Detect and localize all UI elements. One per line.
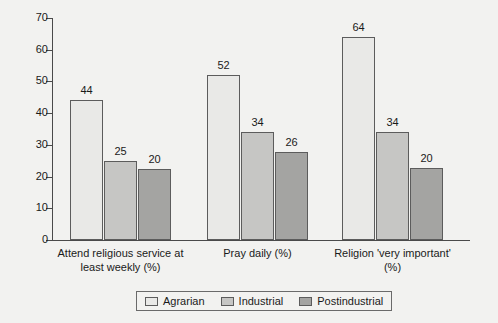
bar-value-label: 44 <box>64 84 109 96</box>
legend-swatch-icon <box>145 297 158 306</box>
bar[interactable] <box>138 169 171 240</box>
y-axis-tick-label: 60 <box>36 43 48 55</box>
x-axis-category-label: Religion 'very important'(%) <box>303 246 483 274</box>
legend-label: Industrial <box>239 295 284 307</box>
bar[interactable] <box>376 132 409 240</box>
y-axis-tick-label: 20 <box>36 170 48 182</box>
x-axis-line <box>52 240 470 241</box>
y-axis-tick-label: 10 <box>36 201 48 213</box>
y-axis-tick-label: 50 <box>36 74 48 86</box>
bar[interactable] <box>342 37 375 240</box>
bar-value-label: 34 <box>370 116 415 128</box>
bar[interactable] <box>207 75 240 240</box>
x-axis-category-label-line: (%) <box>303 260 483 274</box>
bar-group: 442520 <box>70 18 171 240</box>
bar[interactable] <box>104 161 137 240</box>
bar-value-label: 64 <box>336 21 381 33</box>
bar-value-label: 20 <box>132 153 177 165</box>
x-axis-category-label-line: Religion 'very important' <box>303 246 483 260</box>
legend-item[interactable]: Industrial <box>221 295 284 307</box>
bar-value-label: 52 <box>201 59 246 71</box>
bar-value-label: 26 <box>269 136 314 148</box>
legend-swatch-icon <box>221 297 234 306</box>
bar[interactable] <box>241 132 274 240</box>
legend-item[interactable]: Postindustrial <box>299 295 383 307</box>
bar-value-label: 34 <box>235 116 280 128</box>
bar-group: 643420 <box>342 18 443 240</box>
y-axis-tick-label: 0 <box>42 233 48 245</box>
legend-item[interactable]: Agrarian <box>145 295 205 307</box>
x-axis-category-label-line: least weekly (%) <box>31 260 211 274</box>
bar-group: 523426 <box>207 18 308 240</box>
bar[interactable] <box>275 152 308 240</box>
bar-value-label: 20 <box>404 152 449 164</box>
legend-label: Postindustrial <box>317 295 383 307</box>
legend-swatch-icon <box>299 297 312 306</box>
y-axis-line <box>52 18 53 240</box>
legend-label: Agrarian <box>163 295 205 307</box>
chart-legend: AgrarianIndustrialPostindustrial <box>136 291 392 311</box>
plot-area: 706050403020100 442520523426643420 <box>52 18 470 240</box>
y-axis-tick-label: 70 <box>36 11 48 23</box>
bar-chart: 706050403020100 442520523426643420 Atten… <box>0 0 498 323</box>
y-axis-tick-label: 40 <box>36 106 48 118</box>
y-axis-tick-label: 30 <box>36 138 48 150</box>
bar[interactable] <box>70 100 103 240</box>
bar[interactable] <box>410 168 443 240</box>
